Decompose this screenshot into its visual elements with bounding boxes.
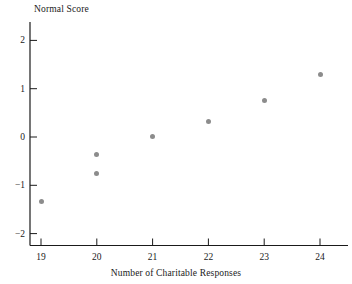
x-axis-title: Number of Charitable Responses	[0, 268, 352, 278]
y-axis-title: Normal Score	[34, 4, 89, 14]
x-tick-label: 24	[308, 252, 332, 262]
x-tick-label: 20	[85, 252, 109, 262]
x-tick-label: 19	[29, 252, 53, 262]
x-tick-label: 23	[252, 252, 276, 262]
data-point	[39, 199, 44, 204]
y-tick-label: 1	[3, 84, 25, 94]
scatter-plot: Normal Score Number of Charitable Respon…	[0, 0, 352, 284]
y-tick-label: 0	[3, 132, 25, 142]
x-tick-label: 22	[196, 252, 220, 262]
data-point	[262, 98, 267, 103]
plot-axes	[0, 0, 352, 284]
y-tick-label: 2	[3, 35, 25, 45]
axis-lines	[30, 22, 348, 246]
data-point	[318, 72, 323, 77]
data-point	[150, 134, 155, 139]
tick-marks	[30, 40, 320, 245]
y-tick-label: −2	[3, 229, 25, 239]
y-tick-label: −1	[3, 180, 25, 190]
data-point	[206, 119, 211, 124]
x-tick-label: 21	[141, 252, 165, 262]
